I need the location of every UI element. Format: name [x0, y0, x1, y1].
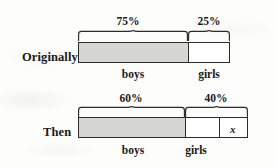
row-label-then: Then — [43, 126, 71, 139]
percent-label-then-boys: 60% — [111, 93, 151, 105]
bar-segment-originally-boys — [79, 43, 188, 62]
group-label-then-girls: girls — [176, 145, 216, 157]
group-label-then-boys: boys — [113, 145, 153, 157]
row-label-originally: Originally — [22, 51, 78, 64]
group-label-originally-boys: boys — [113, 69, 153, 81]
bar-then: x — [78, 117, 248, 138]
brace-then-boys — [78, 106, 185, 117]
bar-originally — [78, 42, 230, 63]
bar-divider-then — [185, 118, 186, 137]
diagram-canvas: Originally 75% 25% boys girls Then 60% 4… — [0, 0, 276, 167]
brace-originally-girls — [188, 30, 230, 41]
percent-label-originally-boys: 75% — [108, 16, 148, 28]
percent-label-then-girls: 40% — [196, 93, 236, 105]
bar-divider-originally — [188, 43, 189, 62]
bar-divider-then-x — [219, 118, 220, 137]
bar-segment-originally-girls — [188, 43, 229, 62]
bar-segment-then-girls — [185, 118, 247, 137]
bar-segment-then-boys — [79, 118, 185, 137]
percent-label-originally-girls: 25% — [189, 16, 229, 28]
brace-originally-boys — [78, 30, 188, 41]
group-label-originally-girls: girls — [189, 69, 229, 81]
x-box-label: x — [230, 124, 236, 135]
brace-then-girls — [185, 106, 248, 117]
